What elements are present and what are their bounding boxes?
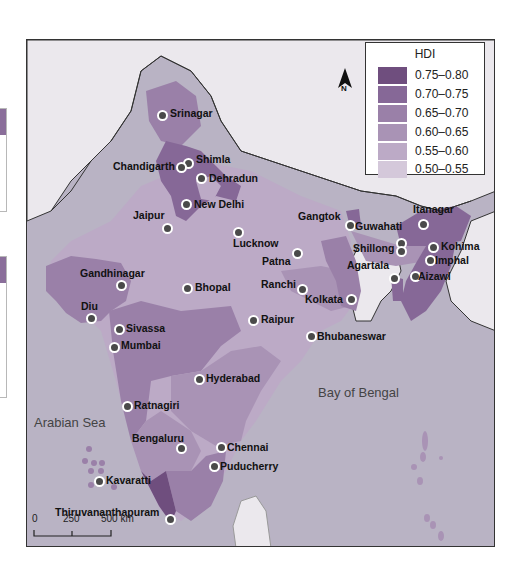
scale-tick-500: 500 km: [101, 513, 134, 524]
city-marker: [346, 294, 357, 305]
city-marker: [176, 162, 187, 173]
city-marker: [248, 315, 259, 326]
city-marker: [94, 476, 105, 487]
legend-label: 0.70–0.75: [415, 87, 468, 101]
city-marker: [122, 401, 133, 412]
legend-swatch: [378, 67, 407, 84]
hdi-legend: HDI 0.75–0.80 0.70–0.75 0.65–0.70 0.60–0…: [365, 42, 485, 175]
city-label: Sivassa: [126, 322, 165, 334]
city-label: Hyderabad: [206, 372, 260, 384]
city-label: Bhopal: [195, 281, 231, 293]
legend-item: 0.55–0.60: [378, 143, 468, 159]
legend-swatch: [378, 143, 407, 160]
city-label: Kavaratti: [106, 474, 151, 486]
city-marker: [292, 248, 303, 259]
legend-item: 0.60–0.65: [378, 124, 468, 140]
city-label: Kolkata: [305, 293, 343, 305]
city-marker: [176, 443, 187, 454]
city-marker: [114, 324, 125, 335]
city-label: Raipur: [261, 313, 294, 325]
city-label: Guwahati: [355, 220, 402, 232]
legend-label: 0.75–0.80: [415, 68, 468, 82]
city-marker: [109, 342, 120, 353]
legend-label: 0.55–0.60: [415, 144, 468, 158]
city-label: Diu: [81, 300, 98, 312]
legend-item: 0.75–0.80: [378, 67, 468, 83]
legend-swatch: [378, 105, 407, 122]
sri-lanka: [233, 496, 271, 547]
city-label: Chennai: [227, 441, 268, 453]
scale-bar: [33, 528, 113, 540]
city-marker: [428, 242, 439, 253]
sea-label-arabian: Arabian Sea: [34, 415, 106, 430]
legend-label: 0.50–0.55: [415, 162, 468, 176]
sea-label-bay-of-bengal: Bay of Bengal: [318, 385, 399, 400]
side-panel-tab-header: [0, 109, 6, 135]
legend-item: 0.50–0.55: [378, 161, 468, 177]
scale-tick-250: 250: [63, 513, 80, 524]
north-label: N: [341, 84, 347, 93]
city-marker: [216, 442, 227, 453]
city-label: Puducherry: [220, 460, 278, 472]
legend-swatch: [378, 124, 407, 141]
city-marker: [389, 273, 400, 284]
city-label: Ratnagiri: [134, 399, 180, 411]
scale-tick-0: 0: [32, 513, 38, 524]
legend-label: 0.65–0.70: [415, 106, 468, 120]
city-label: Kohima: [441, 240, 480, 252]
city-marker: [86, 313, 97, 324]
city-marker: [157, 110, 168, 121]
city-marker: [196, 173, 207, 184]
city-label: Gangtok: [298, 210, 341, 222]
city-marker: [116, 280, 127, 291]
city-marker: [165, 514, 176, 525]
city-marker: [396, 246, 407, 257]
city-marker: [194, 374, 205, 385]
city-label: Jaipur: [133, 209, 165, 221]
city-label: Imphal: [435, 254, 469, 266]
city-label: Mumbai: [121, 339, 161, 351]
side-panel-tab-bottom: [0, 256, 7, 398]
side-panel-tab-top: [0, 108, 7, 212]
city-label: Shillong: [353, 242, 394, 254]
city-label: Agartala: [347, 259, 389, 271]
legend-item: 0.65–0.70: [378, 105, 468, 121]
andaman-nicobar-islands: [411, 431, 444, 541]
city-marker: [418, 219, 429, 230]
city-marker: [162, 223, 173, 234]
city-label: Aizawl: [418, 270, 451, 282]
legend-label: 0.60–0.65: [415, 125, 468, 139]
city-label: Itanagar: [413, 203, 454, 215]
city-label: Lucknow: [233, 237, 279, 249]
city-label: New Delhi: [194, 198, 244, 210]
legend-item: 0.70–0.75: [378, 86, 468, 102]
legend-swatch: [378, 161, 407, 178]
side-panel-tab-header: [0, 257, 6, 283]
legend-swatch: [378, 86, 407, 103]
city-label: Bhubaneswar: [317, 330, 386, 342]
city-label: Gandhinagar: [80, 267, 145, 279]
city-label: Bengaluru: [132, 432, 184, 444]
city-marker: [209, 461, 220, 472]
city-marker: [181, 199, 192, 210]
city-label: Chandigarth: [113, 160, 175, 172]
city-label: Srinagar: [170, 107, 213, 119]
city-label: Dehradun: [209, 172, 258, 184]
city-label: Ranchi: [261, 278, 296, 290]
city-marker: [182, 283, 193, 294]
legend-title: HDI: [366, 47, 484, 61]
city-marker: [306, 331, 317, 342]
city-label: Patna: [262, 255, 291, 267]
city-label: Shimla: [196, 153, 230, 165]
